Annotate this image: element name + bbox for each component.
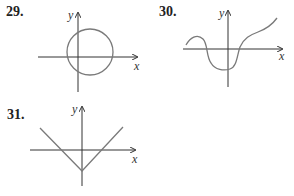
circle-curve	[67, 29, 113, 75]
y-axis-label: y	[71, 102, 78, 116]
wavy-curve	[186, 18, 277, 70]
graphs-canvas: y x y x y x	[0, 0, 294, 196]
x-axis-label: x	[278, 49, 285, 63]
y-axis-label: y	[67, 8, 74, 22]
x-axis-label: x	[131, 152, 138, 166]
graph-31: y x	[30, 102, 138, 186]
y-axis-label: y	[218, 6, 225, 20]
graph-30: y x	[183, 6, 285, 87]
graph-29: y x	[38, 8, 140, 92]
x-axis-label: x	[133, 59, 140, 73]
